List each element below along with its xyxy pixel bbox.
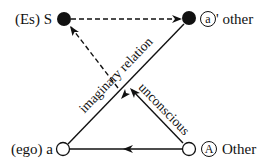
label-unconscious: unconscious (136, 80, 193, 138)
label-es-s: (Es) S (15, 11, 52, 28)
label-other-prime: ' other (216, 11, 253, 27)
schema-l-diagram: (Es) S a ' other (ego) a A Other imagina… (0, 0, 277, 168)
arrowhead-to-other (172, 15, 182, 23)
arrowhead-imaginary (121, 89, 130, 99)
label-circled-a: a (205, 12, 211, 26)
node-s (57, 12, 71, 26)
node-other (183, 143, 196, 156)
node-other-prime (182, 11, 196, 25)
label-circled-A: A (205, 142, 214, 156)
node-ego (57, 143, 70, 156)
label-ego-a: (ego) a (11, 141, 53, 158)
label-imaginary-relation: imaginary relation (76, 34, 156, 116)
label-other: Other (222, 141, 256, 157)
